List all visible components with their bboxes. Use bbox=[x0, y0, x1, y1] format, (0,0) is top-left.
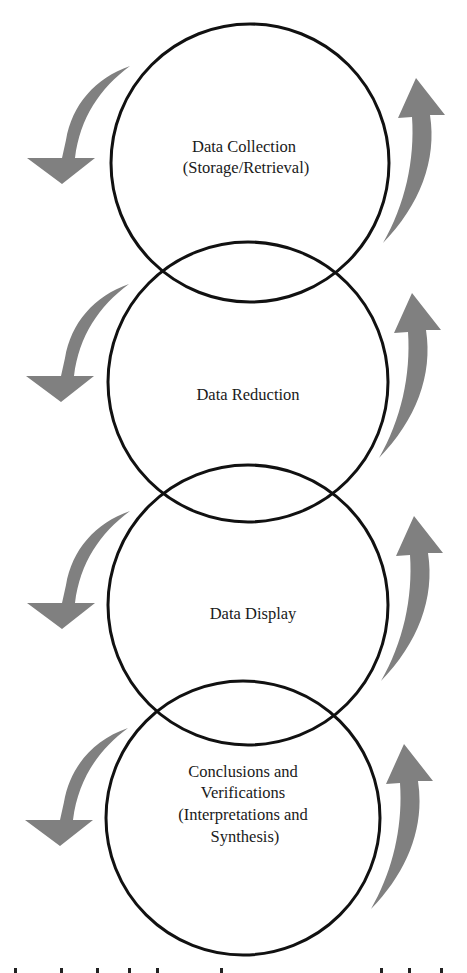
curved-arrow-up-right-icon bbox=[383, 78, 445, 243]
analysis-cycle-diagram: Data Collection (Storage/Retrieval) Data… bbox=[0, 0, 467, 973]
stage-label-display: Data Display bbox=[210, 604, 297, 623]
curved-arrow-down-left-icon bbox=[25, 728, 128, 846]
stage-label-conclusions-line2: Verifications bbox=[201, 783, 285, 802]
cutoff-caption-fragment bbox=[0, 962, 467, 973]
curved-arrow-down-left-icon bbox=[27, 511, 130, 629]
curved-arrow-up-right-icon bbox=[381, 516, 443, 681]
stage-label-conclusions-line3: (Interpretations and bbox=[178, 805, 308, 824]
stage-label-collection-line1: Data Collection bbox=[192, 137, 296, 156]
stage-label-conclusions-line4: Synthesis) bbox=[211, 827, 280, 846]
stage-circle-reduction bbox=[108, 242, 388, 522]
stage-label-collection-line2: (Storage/Retrieval) bbox=[183, 158, 309, 177]
curved-arrow-down-left-icon bbox=[27, 66, 130, 184]
stage-label-reduction: Data Reduction bbox=[196, 385, 299, 404]
stage-label-conclusions-line1: Conclusions and bbox=[188, 762, 298, 781]
